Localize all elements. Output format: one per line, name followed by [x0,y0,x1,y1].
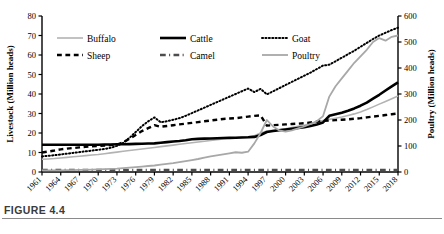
x-axis-tick-label: 2003 [287,174,306,193]
right-axis-tick-label: 500 [404,37,417,47]
x-axis-tick-label: 1991 [212,174,231,193]
x-axis-tick-label: 2000 [268,174,287,193]
x-axis-tick-label: 2009 [324,174,343,193]
x-axis-tick-label: 1970 [81,174,100,193]
x-axis-tick-label: 1988 [193,174,212,193]
series-group [42,28,398,171]
left-axis-tick-label: 20 [28,128,37,138]
axes-group: 01020304050607080Livestock (Million head… [5,11,436,177]
legend-label-cattle: Cattle [190,34,213,44]
chart-area: 01020304050607080Livestock (Million head… [0,0,444,200]
left-axis-tick-label: 10 [28,148,37,158]
legend-label-buffalo: Buffalo [87,34,116,44]
caption-divider [2,218,442,219]
right-axis-title: Poultry (Million heads) [426,49,436,139]
x-axis-tick-label: 1982 [155,174,174,193]
x-axis-tick-label: 2006 [305,174,324,193]
x-axis-tick-label: 1973 [99,174,118,193]
figure-container: 01020304050607080Livestock (Million head… [0,0,444,234]
legend-item-camel[interactable]: Camel [160,51,215,61]
figure-caption-bar: FIGURE 4.4 [0,202,444,219]
legend-item-buffalo[interactable]: Buffalo [57,34,116,44]
x-axis-tick-label: 1976 [118,174,137,193]
x-axis-tick-label: 1979 [137,174,156,193]
legend-item-sheep[interactable]: Sheep [57,51,110,61]
x-axis-tick-label: 1961 [24,174,43,193]
left-axis-tick-label: 80 [28,11,37,21]
x-axis-tick-label: 1967 [62,174,81,193]
left-axis-tick-label: 30 [28,109,37,119]
x-axis-tick-label: 1997 [249,174,268,193]
right-axis-tick-label: 600 [404,11,417,21]
legend-label-sheep: Sheep [87,51,110,61]
left-axis-tick-label: 40 [28,89,37,99]
livestock-poultry-line-chart: 01020304050607080Livestock (Million head… [0,0,444,200]
x-tick-labels: 1961196419671970197319761979198219851988… [24,174,399,194]
x-axis-tick-label: 1994 [230,174,250,194]
x-axis-tick-label: 2018 [380,174,399,193]
x-axis-tick-label: 1985 [174,174,193,193]
legend-item-cattle[interactable]: Cattle [160,34,213,44]
right-axis-tick-label: 300 [404,89,417,99]
legend-item-poultry[interactable]: Poultry [262,51,320,61]
left-axis-title: Livestock (Million heads) [5,45,15,143]
x-axis-tick-label: 2015 [362,174,381,193]
series-line-cattle [42,82,398,144]
x-axis-tick-label: 1964 [43,174,63,194]
x-axis-tick-label: 2012 [343,174,362,193]
left-axis-tick-label: 70 [28,31,37,41]
legend-label-poultry: Poultry [292,51,320,61]
legend-label-goat: Goat [292,34,311,44]
right-axis-tick-label: 100 [404,141,417,151]
right-axis-tick-label: 0 [404,167,408,177]
legend-item-goat[interactable]: Goat [262,34,311,44]
figure-caption: FIGURE 4.4 [0,202,444,218]
left-axis-tick-label: 50 [28,70,37,80]
series-line-sheep [42,114,398,153]
right-axis-tick-label: 200 [404,115,417,125]
right-axis-tick-label: 400 [404,63,417,73]
legend-label-camel: Camel [190,51,215,61]
chart-legend: BuffaloCattleGoatSheepCamelPoultry [57,34,320,61]
left-axis-tick-label: 60 [28,50,37,60]
